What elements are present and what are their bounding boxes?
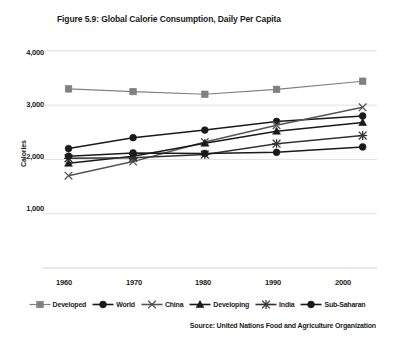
- legend-item-india[interactable]: India: [255, 299, 294, 310]
- chart-legend: DevelopedWorldChinaDevelopingIndiaSub-Sa…: [0, 299, 394, 310]
- legend-marker-square-icon: [29, 299, 51, 310]
- legend-item-world[interactable]: World: [92, 299, 135, 310]
- legend-label: India: [279, 301, 294, 308]
- legend-label: China: [165, 301, 183, 308]
- legend-label: Developing: [213, 301, 249, 308]
- legend-item-developed[interactable]: Developed: [29, 299, 87, 310]
- legend-label: Sub-Saharan: [324, 301, 365, 308]
- chart-plot-area: [0, 0, 394, 348]
- legend-marker-x-icon: [141, 299, 163, 310]
- source-note: Source: United Nations Food and Agricult…: [0, 322, 394, 329]
- legend-marker-asterisk-icon: [255, 299, 277, 310]
- series-india: [64, 131, 367, 163]
- series-world: [65, 113, 366, 152]
- legend-label: World: [116, 301, 135, 308]
- legend-label: Developed: [53, 301, 87, 308]
- legend-item-sub-saharan[interactable]: Sub-Saharan: [300, 299, 365, 310]
- legend-item-developing[interactable]: Developing: [189, 299, 249, 310]
- legend-item-china[interactable]: China: [141, 299, 183, 310]
- legend-marker-circle-icon: [300, 299, 322, 310]
- legend-marker-triangle-icon: [189, 299, 211, 310]
- figure-container: Figure 5.9: Global Calorie Consumption, …: [0, 0, 394, 348]
- series-sub-saharan: [65, 144, 366, 160]
- series-developed: [65, 78, 366, 98]
- legend-marker-circle-icon: [92, 299, 114, 310]
